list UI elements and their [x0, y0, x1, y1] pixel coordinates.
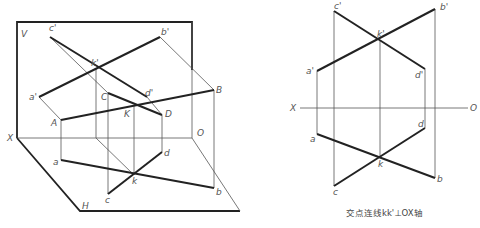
label-c: c	[105, 195, 110, 205]
label-c-prime: c'	[49, 23, 56, 33]
label-A: A	[50, 118, 57, 128]
label-O-r: O	[470, 103, 477, 113]
label-H: H	[82, 201, 89, 211]
label-b-prime: b'	[161, 27, 169, 37]
label-c-prime-r: c'	[334, 1, 341, 11]
label-k-r: k	[378, 159, 384, 169]
label-k-prime: k'	[91, 58, 99, 68]
label-c-r: c	[333, 187, 338, 197]
h-plane-diagonal	[192, 138, 240, 211]
label-B: B	[216, 85, 222, 95]
line-cd-r	[334, 128, 425, 186]
label-V: V	[21, 29, 28, 39]
label-k: k	[132, 176, 138, 186]
label-O: O	[197, 128, 204, 138]
label-b: b	[216, 187, 222, 197]
label-a-prime-r: a'	[306, 66, 314, 76]
line-CD	[108, 93, 162, 115]
proj-b-prime-B	[160, 37, 214, 90]
label-X: X	[6, 133, 14, 143]
caption: 交点连线kk'⊥OX轴	[346, 208, 423, 218]
label-K: K	[124, 109, 131, 119]
label-b-prime-r: b'	[440, 2, 448, 12]
projection-diagram: V H X O c' b' k' a' d' B C K D A a d k c…	[0, 0, 480, 228]
label-d: d	[164, 148, 170, 158]
left-3d-diagram: V H X O c' b' k' a' d' B C K D A a d k c…	[6, 22, 240, 211]
label-d-r: d	[418, 119, 424, 129]
label-a: a	[53, 157, 59, 167]
label-d-prime-r: d'	[415, 70, 423, 80]
label-X-r: X	[289, 103, 297, 113]
label-a-prime: a'	[29, 92, 37, 102]
label-d-prime: d'	[145, 88, 153, 98]
label-b-r: b	[437, 174, 443, 184]
proj-c-prime-C	[50, 37, 108, 93]
line-c-prime-d-prime-r	[334, 11, 425, 69]
v-plane-frame	[17, 22, 192, 138]
label-k-prime-r: k'	[377, 29, 385, 39]
label-a-r: a	[310, 134, 316, 144]
line-ab	[61, 160, 214, 188]
proj-a-prime-A	[39, 97, 61, 120]
right-ortho-diagram: X O c' b' k' a' d' a d k c b 交点连线kk'⊥OX轴	[289, 1, 477, 218]
line-cd	[108, 152, 162, 194]
label-D: D	[165, 109, 172, 119]
line-ab-r	[317, 134, 435, 178]
line-a-prime-b-prime-r	[317, 9, 435, 71]
h-plane-frame	[17, 138, 240, 211]
label-C: C	[101, 92, 108, 102]
